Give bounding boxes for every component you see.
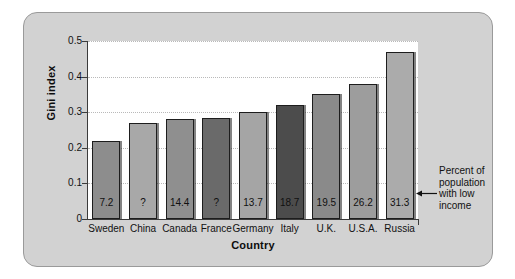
bar-value-label: 7.2 (93, 197, 119, 208)
x-axis-title: Country (88, 239, 418, 251)
bar: 13.7 (239, 112, 267, 219)
x-axis-line (87, 219, 419, 220)
chart-figure-frame: Gini index 00.10.20.30.40.5 7.2?14.4?13.… (23, 12, 493, 267)
annotation-line: population (439, 177, 497, 189)
annotation-arrow-icon (416, 189, 438, 198)
gridline (88, 77, 418, 78)
bar: 26.2 (349, 84, 377, 219)
bar-value-label: ? (203, 197, 229, 208)
x-axis-tick-label: Russia (377, 223, 422, 234)
bar-value-label: 26.2 (350, 197, 376, 208)
bar: 7.2 (92, 141, 120, 219)
bar: 31.3 (386, 52, 414, 219)
bar: ? (129, 123, 157, 219)
y-axis-tick-label: 0.2 (56, 143, 82, 153)
annotation-line: Percent of (439, 165, 497, 177)
bar: 14.4 (166, 119, 194, 219)
bar: 18.7 (276, 105, 304, 219)
gridline (88, 41, 418, 42)
bar: ? (202, 118, 230, 219)
y-axis-tick-label: 0 (56, 214, 82, 224)
y-axis-tick (82, 219, 88, 220)
bar-value-label: 31.3 (387, 197, 413, 208)
y-axis-tick-label: 0.1 (56, 178, 82, 188)
annotation-line: with low (439, 188, 497, 200)
y-axis-tick-label: 0.3 (56, 107, 82, 117)
bar-value-label: ? (130, 197, 156, 208)
y-axis-tick-label: 0.5 (56, 36, 82, 46)
bar-value-label: 18.7 (277, 197, 303, 208)
y-axis-tick-label: 0.4 (56, 72, 82, 82)
bar-value-label: 19.5 (313, 197, 339, 208)
bar-value-label: 13.7 (240, 197, 266, 208)
bar: 19.5 (312, 94, 340, 219)
annotation-line: income (439, 200, 497, 212)
bar-value-label: 14.4 (167, 197, 193, 208)
annotation-percent-low-income: Percent of population with low income (439, 165, 497, 211)
y-axis-line (87, 41, 88, 220)
y-axis-title: Gini index (45, 48, 57, 138)
